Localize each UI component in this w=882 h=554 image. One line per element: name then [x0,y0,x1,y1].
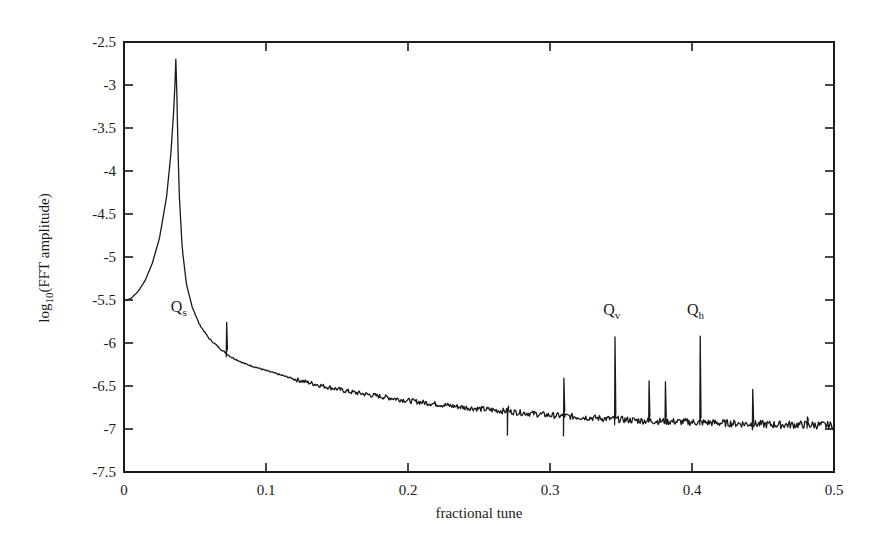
chart-background [0,0,882,554]
y-tick-label: -2.5 [92,34,116,50]
x-tick-label: 0.5 [825,482,844,498]
x-tick-label: 0.2 [399,482,418,498]
x-tick-label: 0.3 [541,482,560,498]
x-tick-label: 0.4 [683,482,702,498]
y-tick-label: -3.5 [92,120,116,136]
y-axis-title-rest: (FFT amplitude) [36,193,53,292]
y-tick-label: -4 [104,163,117,179]
y-axis-title-log: log [36,303,52,323]
y-tick-label: -7.5 [92,464,116,480]
x-tick-label: 0.1 [257,482,276,498]
y-tick-label: -5.5 [92,292,116,308]
fft-spectrum-chart: 00.10.20.30.40.5 -2.5-3-3.5-4-4.5-5-5.5-… [0,0,882,554]
y-tick-label: -7 [104,421,117,437]
y-tick-label: -6.5 [92,378,116,394]
y-tick-label: -4.5 [92,206,116,222]
y-axis-title-sub: 10 [43,292,55,304]
y-tick-label: -5 [104,249,117,265]
y-tick-label: -6 [104,335,117,351]
x-axis-title: fractional tune [435,505,522,521]
x-tick-label: 0 [120,482,128,498]
y-tick-label: -3 [104,77,117,93]
